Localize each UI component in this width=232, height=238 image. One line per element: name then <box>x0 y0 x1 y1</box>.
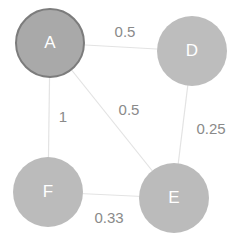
node-label: E <box>168 188 179 208</box>
weighted-graph: 0.50.510.250.33 ADFE <box>0 0 232 238</box>
edge-weight-label: 0.33 <box>94 210 123 225</box>
edge-weight-label: 0.25 <box>196 121 225 136</box>
node-label: A <box>44 33 55 53</box>
edge-weight-label: 0.5 <box>119 102 140 117</box>
node-label: F <box>43 182 53 202</box>
node-e[interactable]: E <box>139 163 209 233</box>
edge-weight-label: 0.5 <box>115 24 136 39</box>
node-d[interactable]: D <box>157 16 227 86</box>
node-label: D <box>186 41 198 61</box>
node-f[interactable]: F <box>13 157 83 227</box>
node-a[interactable]: A <box>15 8 85 78</box>
edge-weight-label: 1 <box>59 109 67 124</box>
